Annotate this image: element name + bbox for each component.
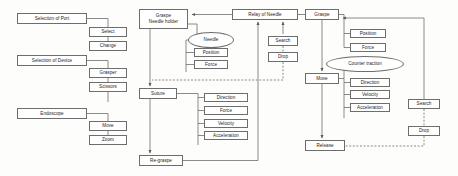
node-release: Release xyxy=(305,140,345,151)
connector-layer xyxy=(0,0,458,176)
node-change: Change xyxy=(89,41,127,51)
node-selection-of-device: Selection of Device xyxy=(17,55,87,66)
node-graspe: Graspe xyxy=(305,9,339,20)
node-force-graspe: Force xyxy=(350,43,386,52)
node-move-traction: Move xyxy=(305,73,339,84)
node-scissors: Scissors xyxy=(89,82,127,92)
node-position-needle: Position xyxy=(194,48,228,57)
node-re-graspe: Re-graspe xyxy=(139,155,183,166)
node-velocity-traction: Velocity xyxy=(350,90,390,99)
node-move-endoscope: Move xyxy=(89,121,127,131)
dash-drop-release xyxy=(345,136,424,146)
node-force-needle: Force xyxy=(194,60,228,69)
node-position-graspe: Position xyxy=(350,29,386,38)
node-endoscope: Endoscope xyxy=(17,108,87,119)
node-acceleration-traction: Acceleration xyxy=(350,103,390,112)
node-select: Select xyxy=(89,27,127,37)
node-suture: Suture xyxy=(139,88,177,99)
node-graspe-needle-holder: Graspe Needle holder xyxy=(139,9,188,29)
node-search-needle: Search xyxy=(268,36,298,46)
node-zoom: Zoom xyxy=(89,135,127,145)
node-direction-traction: Direction xyxy=(350,78,390,87)
node-grasper: Grasper xyxy=(89,68,127,78)
node-selection-of-port: Selection of Port xyxy=(17,13,87,24)
node-direction-suture: Direction xyxy=(204,93,248,102)
node-search-traction: Search xyxy=(408,99,440,109)
diagram-canvas: Selection of PortSelectChangeSelection o… xyxy=(0,0,458,176)
node-acceleration-suture: Acceleration xyxy=(204,131,248,140)
node-counter-traction: Counter traction xyxy=(326,56,404,72)
conn-suture-spine xyxy=(177,94,198,146)
node-drop-needle: Drop xyxy=(268,52,298,62)
node-needle: Needle xyxy=(188,32,234,48)
node-relay-of-needle: Relay of Needle xyxy=(232,9,298,20)
node-drop-traction: Drop xyxy=(408,126,440,136)
node-force-suture: Force xyxy=(204,106,248,115)
conn-graspe-position xyxy=(339,15,350,34)
node-velocity-suture: Velocity xyxy=(204,119,248,128)
